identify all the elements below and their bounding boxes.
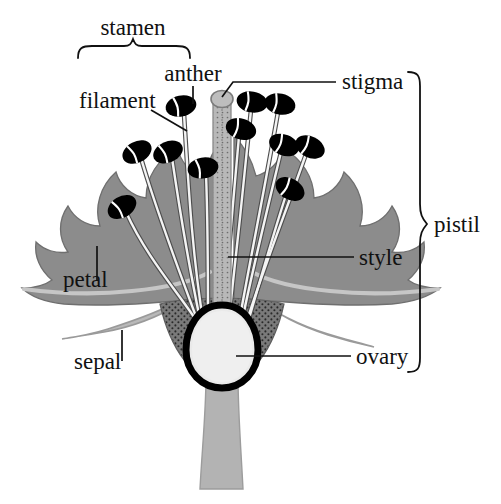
label-anther: anther [164,62,221,85]
label-stigma: stigma [342,70,403,93]
label-ovary: ovary [356,345,408,368]
anther [235,89,269,115]
brace-stamen [78,39,190,58]
label-petal: petal [63,268,108,291]
stem [200,376,243,489]
label-style: style [359,246,402,269]
label-pistil: pistil [434,213,480,236]
flower-illustration [0,0,501,504]
style [213,100,231,332]
label-stamen: stamen [100,16,165,39]
label-filament: filament [79,89,156,112]
label-sepal: sepal [74,350,121,373]
flower-anatomy-diagram: stamen anther filament stigma pistil sty… [0,0,501,504]
brace-pistil [408,72,427,372]
anther [263,91,298,118]
stigma [211,91,233,108]
ovary [186,305,258,388]
petal-right [222,136,440,305]
anther [118,135,155,168]
